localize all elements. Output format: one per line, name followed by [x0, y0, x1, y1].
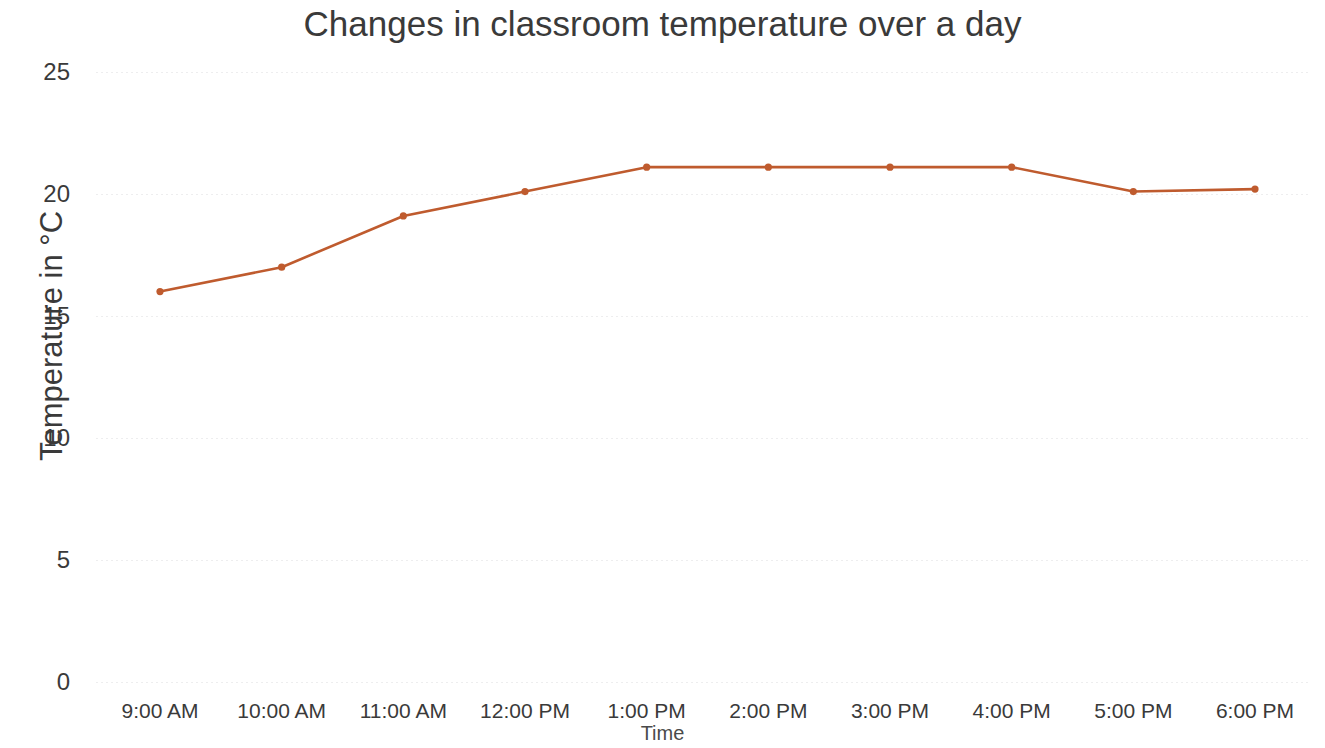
plot-area: 0510152025 9:00 AM10:00 AM11:00 AM12:00 … — [96, 60, 1311, 694]
data-point-marker — [400, 212, 407, 219]
chart-container: Changes in classroom temperature over a … — [0, 0, 1325, 748]
chart-title: Changes in classroom temperature over a … — [0, 4, 1325, 44]
y-axis-tick-label: 5 — [0, 548, 70, 572]
data-point-marker — [643, 164, 650, 171]
x-axis-tick-label: 6:00 PM — [1180, 700, 1325, 721]
data-point-marker — [886, 164, 893, 171]
temperature-line-series — [96, 60, 1311, 694]
y-axis-tick-label: 10 — [0, 426, 70, 450]
data-point-marker — [278, 264, 285, 271]
y-axis-tick-label: 0 — [0, 670, 70, 694]
data-point-marker — [1251, 186, 1258, 193]
x-axis-title: Time — [0, 722, 1325, 745]
data-point-marker — [521, 188, 528, 195]
data-point-marker — [1008, 164, 1015, 171]
series-line — [160, 167, 1255, 291]
y-axis-tick-label: 25 — [0, 60, 70, 84]
data-point-marker — [156, 288, 163, 295]
y-axis-tick-label: 20 — [0, 182, 70, 206]
y-axis-tick-label: 15 — [0, 304, 70, 328]
data-point-marker — [765, 164, 772, 171]
data-point-marker — [1130, 188, 1137, 195]
